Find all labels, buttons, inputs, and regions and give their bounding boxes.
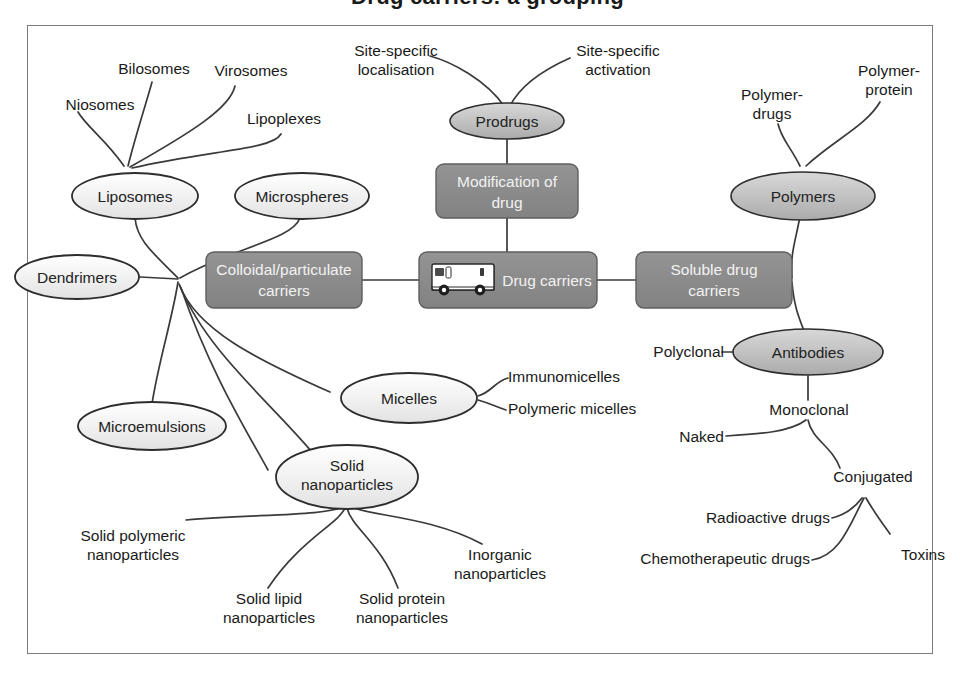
label-naked: Naked — [660, 428, 724, 446]
ellipse-prodrugs[interactable] — [450, 103, 564, 139]
label-solid-lipid-nanoparticles-line1: Solid lipid — [198, 590, 340, 608]
edge-conjugated-toxins — [866, 498, 890, 534]
ellipse-liposomes[interactable] — [72, 173, 198, 219]
edge-dendrimers-colloidal — [140, 277, 178, 279]
edge-micelles-immunomicelles — [478, 378, 508, 396]
label-radioactive-drugs: Radioactive drugs — [682, 509, 830, 527]
edge-chemo-conjugated — [812, 498, 864, 560]
diagram-stage: Drug carriers: a grouping — [0, 0, 975, 685]
label-polymer-protein-line1: Polymer- — [840, 62, 938, 80]
edge-solidnano-protein — [347, 508, 398, 588]
label-polyclonal: Polyclonal — [640, 343, 724, 361]
label-polymer-protein-line2: protein — [840, 81, 938, 99]
edge-monoclonal-conjugated — [808, 420, 840, 468]
label-virosomes: Virosomes — [196, 62, 306, 80]
edge-solidnano-inorganic — [349, 506, 482, 544]
edge-soluble-antibodies — [792, 282, 806, 336]
box-modification-of-drug[interactable] — [436, 164, 578, 218]
label-solid-polymeric-nanoparticles-line1: Solid polymeric — [60, 527, 206, 545]
label-bilosomes: Bilosomes — [98, 60, 210, 78]
label-monoclonal: Monoclonal — [755, 401, 863, 419]
label-toxins: Toxins — [888, 546, 958, 564]
label-polymeric-micelles: Polymeric micelles — [508, 400, 676, 418]
edge-solidnano-polymeric — [186, 506, 344, 520]
delivery-van-icon — [432, 264, 494, 295]
edge-radioactive-conjugated — [832, 498, 862, 518]
label-site-specific-localisation-line1: Site-specific — [338, 42, 454, 60]
edge-solidnano-lipid — [268, 508, 345, 588]
ellipse-dendrimers[interactable] — [15, 255, 139, 299]
label-solid-lipid-nanoparticles-line2: nanoparticles — [198, 609, 340, 627]
label-solid-protein-nanoparticles-line2: nanoparticles — [330, 609, 474, 627]
label-site-specific-activation-line1: Site-specific — [560, 42, 676, 60]
label-immunomicelles: Immunomicelles — [508, 368, 654, 386]
edge-niosomes-liposomes — [78, 112, 124, 166]
edge-liposomes-colloidal — [135, 218, 178, 278]
label-solid-protein-nanoparticles-line1: Solid protein — [330, 590, 474, 608]
edge-bilosomes-liposomes — [128, 82, 152, 166]
ellipse-microemulsions[interactable] — [78, 402, 226, 450]
node-shapes — [15, 103, 883, 509]
label-polymer-drugs-line1: Polymer- — [722, 86, 822, 104]
label-inorganic-nanoparticles-line1: Inorganic — [428, 546, 572, 564]
edge-polymerdrugs-polymers — [778, 124, 800, 166]
ellipse-antibodies[interactable] — [733, 329, 883, 375]
ellipse-micelles[interactable] — [341, 373, 477, 423]
box-colloidal-particulate-carriers[interactable] — [206, 252, 362, 308]
ellipse-polymers[interactable] — [731, 172, 875, 220]
label-chemotherapeutic-drugs: Chemotherapeutic drugs — [604, 550, 810, 568]
box-soluble-drug-carriers[interactable] — [636, 252, 792, 308]
label-polymer-drugs-line2: drugs — [722, 105, 822, 123]
edge-polymers-soluble — [792, 216, 800, 278]
label-lipoplexes: Lipoplexes — [228, 110, 340, 128]
label-site-specific-activation-line2: activation — [560, 61, 676, 79]
label-niosomes: Niosomes — [46, 96, 154, 114]
edge-micelles-polymeric — [478, 400, 506, 410]
ellipse-solid-nanoparticles[interactable] — [276, 445, 418, 509]
edge-colloidal-microemulsions — [152, 282, 178, 404]
label-solid-polymeric-nanoparticles-line2: nanoparticles — [60, 546, 206, 564]
edge-lipoplexes-liposomes — [132, 134, 281, 168]
edge-monoclonal-naked — [726, 420, 806, 436]
label-site-specific-localisation-line2: localisation — [338, 61, 454, 79]
ellipse-microspheres[interactable] — [235, 173, 369, 219]
label-conjugated: Conjugated — [820, 468, 926, 486]
label-inorganic-nanoparticles-line2: nanoparticles — [428, 565, 572, 583]
